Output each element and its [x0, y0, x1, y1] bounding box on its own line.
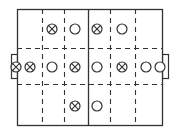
open-circle-player-icon: [92, 101, 102, 111]
open-circle-player-icon: [141, 62, 151, 72]
open-circle-player-icon: [92, 62, 102, 72]
open-circle-player-icon: [70, 24, 80, 34]
field-canvas: [0, 0, 176, 135]
soccer-field-diagram: [0, 0, 176, 135]
open-circle-player-icon: [47, 62, 57, 72]
open-circle-player-icon: [117, 24, 127, 34]
open-circle-player-icon: [155, 62, 165, 72]
